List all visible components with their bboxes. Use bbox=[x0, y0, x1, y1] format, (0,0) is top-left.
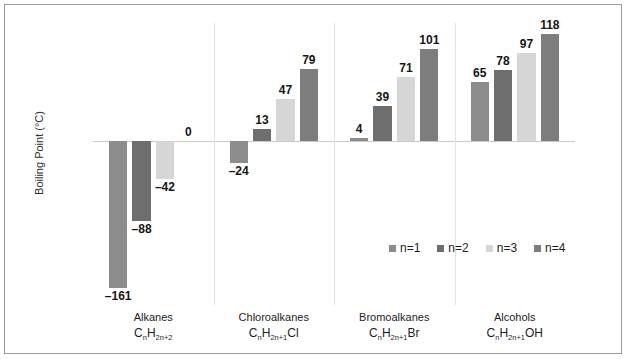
legend-swatch-icon bbox=[534, 245, 541, 252]
bar-slot: 79 bbox=[300, 23, 318, 305]
bar[interactable] bbox=[109, 141, 127, 287]
bar-value-label: –88 bbox=[132, 223, 152, 236]
legend-swatch-icon bbox=[437, 245, 444, 252]
legend-item[interactable]: n=4 bbox=[534, 242, 565, 254]
bar[interactable] bbox=[300, 69, 318, 141]
bar-group: –161–88–420 bbox=[93, 23, 214, 305]
category-formula: CnH2n+1Cl bbox=[214, 325, 335, 343]
category-label: ChloroalkanesCnH2n+1Cl bbox=[214, 309, 335, 343]
bar[interactable] bbox=[132, 141, 150, 221]
legend-item[interactable]: n=2 bbox=[437, 242, 468, 254]
bar-value-label: –24 bbox=[229, 165, 249, 178]
bar-slot: 39 bbox=[373, 23, 391, 305]
bar[interactable] bbox=[541, 34, 559, 141]
legend-label: n=3 bbox=[497, 242, 517, 254]
legend-swatch-icon bbox=[389, 245, 396, 252]
chart-screenshot: Boiling Point (°C) –161–88–420–241347794… bbox=[0, 0, 627, 359]
bar-value-label: 4 bbox=[356, 123, 363, 136]
category-name: Chloroalkanes bbox=[214, 309, 335, 325]
bar-slot: 0 bbox=[179, 23, 197, 305]
bar-slot: 65 bbox=[471, 23, 489, 305]
category-label: AlkanesCnH2n+2 bbox=[93, 309, 214, 343]
plot-area: –161–88–420–2413477943971101657897118 n=… bbox=[93, 23, 575, 305]
bar[interactable] bbox=[156, 141, 174, 179]
category-name: Bromoalkanes bbox=[334, 309, 455, 325]
bar[interactable] bbox=[350, 138, 368, 142]
bar-value-label: 78 bbox=[496, 55, 509, 68]
category-formula: CnH2n+1Br bbox=[334, 325, 455, 343]
bar[interactable] bbox=[494, 70, 512, 141]
bar-value-label: 118 bbox=[540, 19, 559, 32]
category-label: BromoalkanesCnH2n+1Br bbox=[334, 309, 455, 343]
bar-slot: 71 bbox=[397, 23, 415, 305]
bar[interactable] bbox=[420, 49, 438, 141]
legend-label: n=1 bbox=[400, 242, 420, 254]
category-axis-labels: AlkanesCnH2n+2ChloroalkanesCnH2n+1ClBrom… bbox=[93, 309, 575, 355]
bar-slot: –42 bbox=[156, 23, 174, 305]
category-formula: CnH2n+1OH bbox=[455, 325, 576, 343]
bar-slot: –88 bbox=[132, 23, 150, 305]
bar[interactable] bbox=[253, 129, 271, 141]
bar-group: 43971101 bbox=[334, 23, 455, 305]
bar-value-label: 0 bbox=[185, 126, 192, 139]
legend-swatch-icon bbox=[486, 245, 493, 252]
bar-value-label: 71 bbox=[399, 62, 412, 75]
bar-value-label: 47 bbox=[279, 84, 292, 97]
bar-group: 657897118 bbox=[455, 23, 576, 305]
bar-slot: 118 bbox=[541, 23, 559, 305]
bar-value-label: 79 bbox=[302, 54, 315, 67]
bar[interactable] bbox=[471, 82, 489, 141]
legend-label: n=2 bbox=[448, 242, 468, 254]
bar-value-label: –161 bbox=[105, 290, 132, 303]
bar[interactable] bbox=[230, 141, 248, 163]
category-formula: CnH2n+2 bbox=[93, 325, 214, 343]
chart-legend: n=1n=2n=3n=4 bbox=[389, 242, 565, 254]
chart-frame: Boiling Point (°C) –161–88–420–241347794… bbox=[4, 4, 622, 354]
bar-value-label: 13 bbox=[255, 114, 268, 127]
legend-label: n=4 bbox=[545, 242, 565, 254]
bar-slot: 4 bbox=[350, 23, 368, 305]
bar-value-label: 39 bbox=[376, 91, 389, 104]
legend-item[interactable]: n=3 bbox=[486, 242, 517, 254]
bar-slot: 101 bbox=[420, 23, 438, 305]
bar-slot: 13 bbox=[253, 23, 271, 305]
bar-value-label: 65 bbox=[473, 67, 486, 80]
bar[interactable] bbox=[397, 77, 415, 142]
bar-slot: 47 bbox=[276, 23, 294, 305]
bar-slot: –161 bbox=[109, 23, 127, 305]
bar-group: –24134779 bbox=[214, 23, 335, 305]
bar[interactable] bbox=[373, 106, 391, 141]
bar-slot: 97 bbox=[517, 23, 535, 305]
bar[interactable] bbox=[517, 53, 535, 141]
y-axis-title: Boiling Point (°C) bbox=[33, 73, 45, 233]
bar-value-label: 97 bbox=[520, 38, 533, 51]
bar[interactable] bbox=[276, 99, 294, 142]
bar-value-label: 101 bbox=[419, 34, 439, 47]
legend-item[interactable]: n=1 bbox=[389, 242, 420, 254]
bar-slot: –24 bbox=[230, 23, 248, 305]
bar-value-label: –42 bbox=[155, 181, 175, 194]
category-label: AlcoholsCnH2n+1OH bbox=[455, 309, 576, 343]
category-name: Alcohols bbox=[455, 309, 576, 325]
bar-slot: 78 bbox=[494, 23, 512, 305]
category-name: Alkanes bbox=[93, 309, 214, 325]
